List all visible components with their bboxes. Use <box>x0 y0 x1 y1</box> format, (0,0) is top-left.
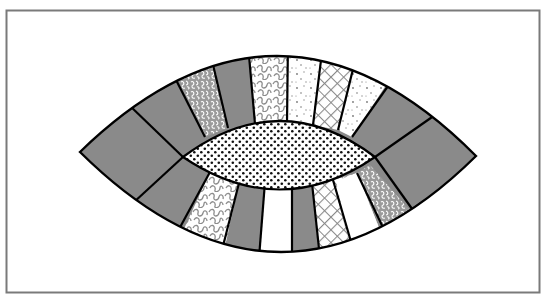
quilt-block-diagram <box>0 0 546 299</box>
